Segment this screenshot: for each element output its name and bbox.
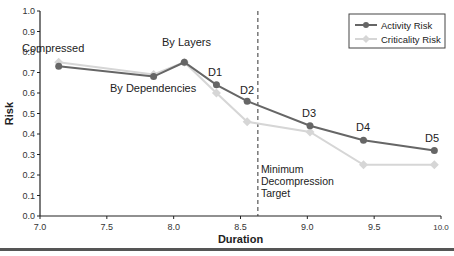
point-label: D4 xyxy=(356,121,370,133)
annotation-text: Minimum xyxy=(261,163,304,175)
x-tick-label: 7.5 xyxy=(101,222,114,232)
y-tick-label: 0.1 xyxy=(22,191,35,201)
y-tick-label: 0.4 xyxy=(22,129,35,139)
point-label: By Layers xyxy=(162,36,211,48)
annotation-text: Decompression xyxy=(261,175,334,187)
point-label: Compressed xyxy=(22,42,84,54)
y-tick-label: 0.6 xyxy=(22,88,35,98)
annotation-text: Target xyxy=(261,187,290,199)
point-label: D3 xyxy=(302,107,316,119)
x-tick-label: 10.0 xyxy=(433,223,449,232)
x-tick-label: 7.0 xyxy=(34,222,47,232)
risk-duration-chart: 0.00.10.20.30.40.50.60.70.80.91.07.07.58… xyxy=(0,0,454,256)
series-group xyxy=(54,58,439,170)
y-tick-label: 0.9 xyxy=(22,27,35,37)
x-tick-label: 8.0 xyxy=(167,222,180,232)
legend-label: Criticality Risk xyxy=(381,34,441,45)
point-labels: CompressedBy DependenciesBy LayersD1D2D3… xyxy=(22,36,439,144)
y-tick-label: 1.0 xyxy=(22,6,35,16)
point-label: D2 xyxy=(240,84,254,96)
activity-risk-line xyxy=(59,62,435,150)
criticality-risk-line xyxy=(59,62,435,165)
y-tick-label: 0.0 xyxy=(22,211,35,221)
legend-label: Activity Risk xyxy=(381,20,432,31)
legend: Activity RiskCriticality Risk xyxy=(349,14,445,48)
y-tick-label: 0.3 xyxy=(22,150,35,160)
x-axis-title: Duration xyxy=(218,233,264,245)
y-tick-label: 0.2 xyxy=(22,170,35,180)
y-axis-title: Risk xyxy=(3,101,15,125)
point-label: D1 xyxy=(208,66,222,78)
x-tick-label: 9.5 xyxy=(368,222,381,232)
minimum-decompression-target-line: MinimumDecompressionTarget xyxy=(258,11,334,216)
bottom-divider xyxy=(0,248,454,251)
x-tick-label: 8.5 xyxy=(234,222,247,232)
y-tick-label: 0.5 xyxy=(22,109,35,119)
point-label: By Dependencies xyxy=(110,82,197,94)
y-tick-label: 0.7 xyxy=(22,68,35,78)
point-label: D5 xyxy=(425,132,439,144)
x-tick-label: 9.0 xyxy=(301,222,314,232)
